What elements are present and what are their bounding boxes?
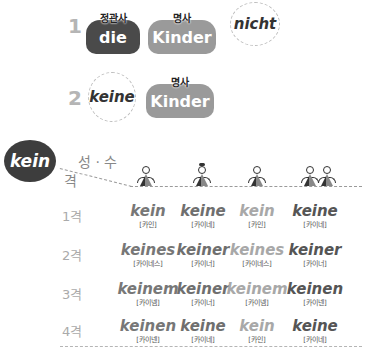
case-label-3: 3격 [62, 284, 82, 303]
cell-3-masc: keinem[카이넴] [117, 281, 179, 308]
cell-1-neut: kein[카인] [226, 203, 288, 230]
cell-2-masc: keines[카이네스] [117, 242, 179, 269]
case-label-2: 2격 [62, 245, 82, 264]
female-figure-icon [193, 166, 211, 186]
cell-3-neut: keinem[카이넴] [226, 281, 288, 308]
cell-4-fem: keine[카이네] [172, 318, 234, 345]
example-number-1: 1 [68, 14, 82, 38]
cell-4-pl: keine[카이네] [284, 318, 346, 345]
cell-2-pl: keiner[카이너] [284, 242, 346, 269]
noun-tag-2: 명사 [146, 74, 214, 89]
case-label-1: 1격 [62, 206, 82, 225]
noun-word-2: Kinder [150, 92, 209, 111]
cell-4-masc: keinen[카이넨] [117, 318, 179, 345]
kein-badge: kein [4, 140, 56, 182]
noun-word: Kinder [152, 28, 211, 47]
cell-2-neut: keines[카이네스] [226, 242, 288, 269]
article-blob: 정관사 die [86, 20, 140, 54]
figures-baseline [130, 186, 362, 187]
plural-figure-icon-a [301, 166, 319, 186]
cell-1-fem: keine[카이네] [172, 203, 234, 230]
neuter-figure-icon [248, 166, 266, 186]
noun-tag: 명사 [148, 10, 216, 25]
cell-1-masc: kein[카인] [117, 203, 179, 230]
case-label-4: 4격 [62, 321, 82, 340]
nicht-circle: nicht [230, 2, 280, 46]
noun-blob-2: 명사 Kinder [146, 84, 214, 118]
article-word: die [99, 28, 127, 47]
keine-circle: keine [88, 72, 136, 122]
plural-figure-icon-b [318, 166, 336, 186]
cell-2-fem: keiner[카이너] [172, 242, 234, 269]
article-tag: 정관사 [86, 10, 140, 25]
cell-3-pl: keinen[카이넨] [284, 281, 346, 308]
cell-4-neut: kein[카인] [226, 318, 288, 345]
male-figure-icon [137, 166, 155, 186]
table-bottom-divider [60, 346, 362, 347]
cell-1-pl: keine[카이네] [284, 203, 346, 230]
noun-blob: 명사 Kinder [148, 20, 216, 54]
example-number-2: 2 [68, 86, 82, 110]
cell-3-fem: keiner[카이너] [172, 281, 234, 308]
header-gender-number: 성 · 수 [78, 151, 117, 171]
